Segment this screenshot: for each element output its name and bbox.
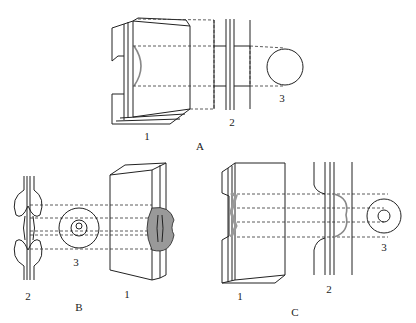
panel-c-plate-2	[314, 162, 352, 275]
panel-b	[14, 163, 174, 280]
diagram-canvas	[0, 0, 416, 323]
panel-a-section-3	[267, 49, 303, 85]
panel-c-caption: C	[291, 307, 298, 318]
panel-c-label-3: 3	[381, 242, 387, 253]
panel-a-block-1	[112, 18, 190, 124]
panel-a-label-2: 2	[229, 117, 235, 128]
panel-c-section-3	[367, 199, 401, 233]
panel-c-label-2: 2	[326, 284, 332, 295]
panel-b-section-3	[59, 208, 99, 248]
panel-b-block-1	[110, 163, 174, 280]
panel-b-label-2: 2	[25, 291, 31, 302]
panel-a	[112, 18, 303, 124]
panel-a-label-1: 1	[144, 131, 150, 142]
panel-b-plate-2	[14, 176, 42, 280]
panel-c-block-1	[222, 163, 285, 283]
panel-a-plate-2	[214, 19, 250, 110]
panel-a-label-3: 3	[279, 93, 285, 104]
panel-c	[222, 162, 401, 283]
panel-b-label-3: 3	[73, 257, 79, 268]
panel-b-label-1: 1	[124, 289, 130, 300]
panel-a-caption: A	[196, 141, 204, 152]
panel-b-caption: B	[75, 302, 82, 313]
panel-c-label-1: 1	[237, 291, 243, 302]
